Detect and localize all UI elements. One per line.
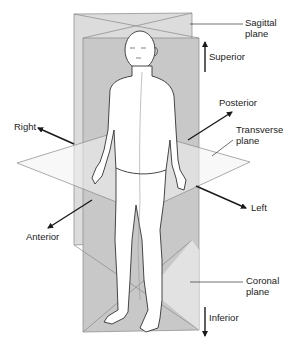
posterior-label: Posterior <box>219 98 257 109</box>
anterior-label: Anterior <box>26 232 59 243</box>
right-label: Right <box>14 122 36 133</box>
transverse-plane-label: Transverse plane <box>236 125 283 146</box>
sagittal-plane-label: Sagittal plane <box>245 18 277 39</box>
inferior-label: Inferior <box>209 313 239 324</box>
right-arrow <box>38 128 74 144</box>
superior-label: Superior <box>209 52 245 63</box>
coronal-plane-label: Coronal plane <box>246 276 279 297</box>
left-label: Left <box>251 203 267 214</box>
transverse-leader <box>212 140 233 156</box>
left-arrow <box>196 186 246 208</box>
